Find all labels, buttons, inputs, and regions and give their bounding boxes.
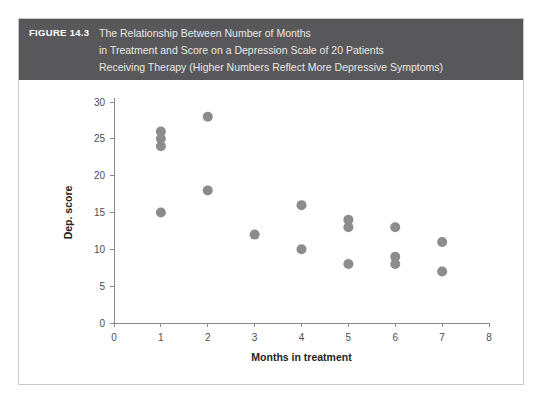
x-tick-label: 6: [392, 332, 398, 343]
data-point: [156, 141, 166, 151]
data-point: [203, 112, 213, 122]
scatter-plot-area: 051015202530 012345678 Dep. score Months…: [19, 80, 523, 384]
y-tick-label: 20: [94, 170, 106, 181]
x-tick-label: 8: [486, 332, 492, 343]
data-point: [390, 222, 400, 232]
data-point: [343, 259, 353, 269]
figure-number-label: FIGURE 14.3: [29, 25, 95, 38]
x-axis-title: Months in treatment: [251, 351, 352, 363]
y-axis-title: Dep. score: [62, 186, 74, 240]
x-tick-label: 0: [111, 332, 117, 343]
data-point: [437, 266, 447, 276]
data-point: [437, 237, 447, 247]
y-tick-label: 10: [94, 244, 106, 255]
y-tick-label: 30: [94, 97, 106, 108]
scatter-chart: 051015202530 012345678 Dep. score Months…: [19, 80, 523, 384]
x-axis: 012345678: [111, 323, 492, 343]
x-tick-label: 2: [205, 332, 211, 343]
data-point: [390, 259, 400, 269]
data-point: [250, 230, 260, 240]
x-tick-label: 3: [252, 332, 258, 343]
figure-container: FIGURE 14.3 The Relationship Between Num…: [18, 18, 524, 385]
caption-line-2: in Treatment and Score on a Depression S…: [99, 42, 513, 59]
data-point: [297, 200, 307, 210]
y-axis: 051015202530: [94, 97, 114, 329]
x-tick-label: 1: [158, 332, 164, 343]
x-tick-label: 4: [299, 332, 305, 343]
data-point: [343, 222, 353, 232]
caption-line-1: The Relationship Between Number of Month…: [99, 25, 513, 42]
data-point: [297, 244, 307, 254]
data-points-layer: [156, 112, 447, 277]
figure-caption-band: FIGURE 14.3 The Relationship Between Num…: [19, 19, 523, 80]
caption-line-3: Receiving Therapy (Higher Numbers Reflec…: [99, 59, 513, 76]
x-tick-label: 5: [346, 332, 352, 343]
x-tick-label: 7: [439, 332, 445, 343]
figure-caption-text: The Relationship Between Number of Month…: [95, 25, 513, 76]
y-tick-label: 15: [94, 207, 106, 218]
y-tick-label: 25: [94, 133, 106, 144]
y-tick-label: 0: [99, 318, 105, 329]
data-point: [156, 208, 166, 218]
data-point: [203, 185, 213, 195]
y-tick-label: 5: [99, 281, 105, 292]
